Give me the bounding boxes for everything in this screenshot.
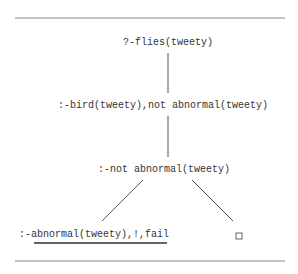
node-root: ?-flies(tweety) <box>123 37 213 48</box>
node-not-abnormal: :-not abnormal(tweety) <box>98 164 230 175</box>
edge-n2-to-n3 <box>102 180 143 221</box>
node-abnormal-cut-fail: :-abnormal(tweety),!,fail <box>19 229 169 240</box>
resolution-tree-diagram: ?-flies(tweety) :-bird(tweety),not abnor… <box>0 0 298 274</box>
node-bird-not-abnormal: :-bird(tweety),not abnormal(tweety) <box>58 100 268 111</box>
empty-clause-box-icon <box>236 233 242 239</box>
edge-n2-to-n4 <box>192 180 233 221</box>
